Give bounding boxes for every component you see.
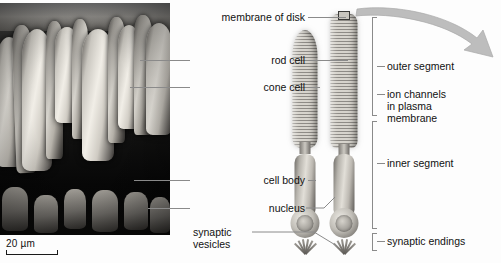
rod-nucleus — [336, 215, 353, 232]
scale-bar-line — [6, 250, 58, 255]
label-ion-channels: ion channels in plasma membrane — [387, 88, 497, 124]
leader-rod-cell-right — [308, 60, 348, 61]
bracket-synaptic-endings — [372, 233, 377, 251]
label-cone-cell: cone cell — [203, 81, 305, 93]
leader-cone-cell-left — [130, 87, 190, 88]
leader-ion-channels — [377, 94, 385, 95]
rod-inner-segment — [334, 154, 355, 216]
label-cell-body: cell body — [193, 174, 305, 186]
leader-inner-segment — [377, 163, 385, 164]
leader-synaptic-endings — [377, 241, 385, 242]
leader-membrane-of-disk — [308, 17, 346, 18]
leader-synaptic-vesicles — [252, 222, 338, 248]
micrograph-vignette — [0, 3, 170, 235]
leader-cell-body-left — [134, 180, 190, 181]
scale-bar: 20 µm — [6, 238, 58, 255]
label-outer-segment: outer segment — [387, 60, 497, 72]
label-nucleus: nucleus — [203, 202, 305, 214]
label-synaptic-endings: synaptic endings — [387, 235, 497, 247]
leader-outer-segment — [377, 66, 385, 67]
disk-membrane-marker — [338, 11, 350, 20]
photoreceptor-figure: 20 µm — [0, 0, 501, 263]
label-inner-segment: inner segment — [387, 157, 497, 169]
label-membrane-of-disk: membrane of disk — [193, 11, 305, 23]
cone-connecting-cilium — [300, 142, 311, 154]
leader-cell-body-right — [308, 180, 316, 181]
scale-bar-label: 20 µm — [6, 238, 58, 249]
electron-micrograph — [0, 3, 170, 235]
leader-nucleus-left — [148, 208, 190, 209]
leader-cone-cell-right — [308, 87, 320, 88]
label-rod-cell: rod cell — [203, 54, 305, 66]
leader-nucleus — [306, 196, 336, 220]
rod-outer-segment — [331, 14, 358, 148]
leader-rod-cell-left — [140, 60, 190, 61]
bracket-inner-segment — [372, 121, 377, 229]
